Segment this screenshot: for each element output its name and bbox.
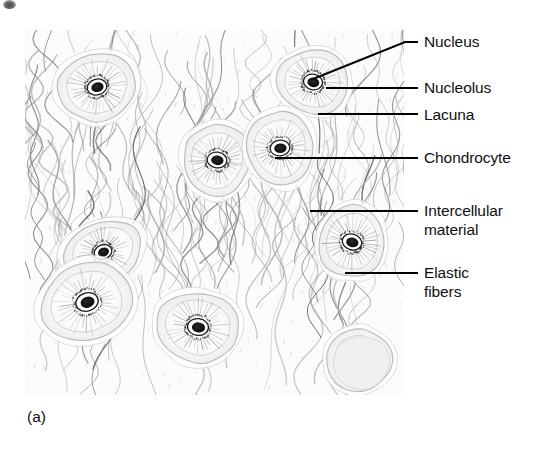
callout-label-elastic-fibers: Elastic fibers: [424, 263, 469, 301]
halftone-grain-overlay: [25, 30, 404, 395]
micrograph-illustration: [25, 30, 404, 395]
callout-label-nucleolus: Nucleolus: [424, 78, 491, 97]
panel-caption: (a): [27, 408, 46, 426]
scan-artifact: [3, 0, 16, 9]
callout-label-nucleus: Nucleus: [424, 32, 479, 51]
callout-label-intercellular-material: Intercellular material: [424, 201, 503, 239]
callout-label-lacuna: Lacuna: [424, 105, 474, 124]
figure-root: Nucleus Nucleolus Lacuna Chondrocyte Int…: [0, 0, 548, 471]
elastic-cartilage-drawing: [25, 30, 404, 395]
callout-label-chondrocyte: Chondrocyte: [424, 148, 511, 167]
